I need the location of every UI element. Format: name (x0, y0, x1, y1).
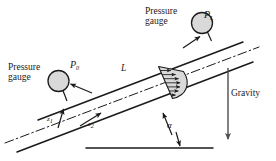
gauge-right-pointer (183, 37, 200, 49)
pressure-gauge-right-label-line2: gauge (145, 16, 168, 26)
gravity-label: Gravity (231, 88, 260, 98)
pressure-downstream-subscript: L (210, 14, 213, 21)
elevation-1-subscript: 1 (50, 117, 53, 124)
elevation-1-label: z1 (47, 116, 53, 125)
elevation-2-label: z2 (88, 121, 94, 130)
pipe-flow-diagram (0, 0, 276, 161)
pressure-downstream-label: PL (204, 10, 214, 22)
pressure-gauge-left-label-line1: Pressure (8, 62, 40, 72)
length-label: L (121, 63, 126, 73)
gauge-left-pointer (71, 84, 93, 93)
pressure-upstream-label: P0 (70, 60, 79, 72)
pressure-gauge-left[interactable] (48, 71, 69, 92)
pressure-gauge-left-label: Pressuregauge (8, 62, 40, 83)
figure-canvas: Pressuregauge Pressuregauge PL P0 L z1 z… (0, 0, 276, 161)
pressure-gauge-right-label: Pressuregauge (145, 6, 177, 27)
elevation-2-subscript: 2 (91, 122, 94, 129)
pressure-gauge-right-label-line1: Pressure (145, 6, 177, 16)
pipe-centerline (5, 47, 259, 143)
angle-pointer-horizontal (176, 132, 180, 146)
pressure-gauge-left-label-line2: gauge (8, 72, 31, 82)
angle-label: α (167, 121, 172, 131)
pressure-upstream-subscript: 0 (76, 64, 79, 71)
